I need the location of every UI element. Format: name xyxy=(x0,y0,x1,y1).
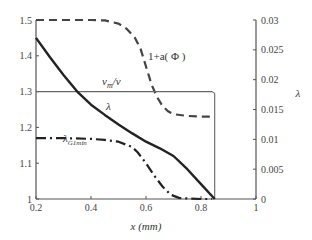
y-right-tick-label: 0.005 xyxy=(261,164,284,175)
x-tick-label: 1 xyxy=(254,202,259,213)
y-left-tick-label: 1.4 xyxy=(20,50,33,61)
x-axis-label: x (mm) xyxy=(130,220,162,233)
curve-label-lambda: λ xyxy=(105,100,111,112)
curve-label-lg-sub: G1min xyxy=(68,139,88,147)
series-1-line xyxy=(36,92,215,199)
curve-label-alpha: 1+a( Φ ) xyxy=(148,50,186,63)
y-right-tick-label: 0 xyxy=(261,194,266,205)
y-left-tick-label: 1.5 xyxy=(20,15,33,26)
series-0-line xyxy=(36,20,215,117)
y-right-tick-label: 0.015 xyxy=(261,104,284,115)
y-right-tick-label: 0.025 xyxy=(261,44,284,55)
y-left-tick-label: 1.3 xyxy=(20,86,33,97)
x-tick-label: 0.4 xyxy=(85,202,98,213)
y-right-tick-label: 0.02 xyxy=(261,74,279,85)
series-group xyxy=(36,20,215,199)
y-left-tick-label: 1 xyxy=(27,194,32,205)
y-left-tick-label: 1.2 xyxy=(20,122,33,133)
y-right-tick-label: 0.03 xyxy=(261,15,279,26)
x-tick-label: 0.6 xyxy=(140,202,153,213)
chart-svg: 0.20.40.60.8111.11.21.31.41.500.0050.010… xyxy=(0,0,312,240)
curve-label-lambda-g1min: λG1min xyxy=(62,132,87,147)
y-left-tick-label: 1.1 xyxy=(20,158,33,169)
y-right-tick-label: 0.01 xyxy=(261,134,279,145)
series-2-line xyxy=(36,38,215,199)
x-tick-label: 0.8 xyxy=(195,202,208,213)
curve-label-vm-tail: /v xyxy=(112,75,121,87)
axes: 0.20.40.60.8111.11.21.31.41.500.0050.010… xyxy=(20,15,284,214)
right-axis-label: λ xyxy=(295,87,301,99)
curve-label-vm: vm/v xyxy=(102,75,121,90)
